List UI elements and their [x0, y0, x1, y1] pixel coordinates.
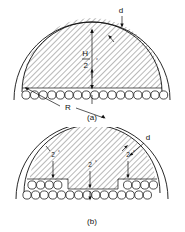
caption-b: (b)	[87, 217, 97, 226]
label-left-step-degree-b: °	[58, 150, 60, 155]
label-d-a: d	[119, 6, 123, 15]
label-angle-degree-a: °	[96, 58, 98, 63]
tube-row-a	[22, 91, 168, 99]
caption-a: (a)	[87, 113, 97, 122]
tube-row-lower-b	[23, 191, 152, 199]
label-left-step-b: 2	[51, 151, 55, 158]
label-right-step-degree-b: °	[133, 150, 135, 155]
panel-b-figure: d 2 ° 2 ° 2 ° (b)	[0, 127, 185, 232]
panel-a-caption-wrap: (a)	[0, 106, 185, 126]
figure-root: d H 2 ° R (a)	[0, 0, 185, 232]
label-d-b: d	[146, 133, 150, 142]
label-h-a: H	[82, 49, 88, 58]
label-right-step-b: 2	[126, 151, 130, 158]
panel-a-figure: d H 2 ° R	[0, 0, 185, 120]
label-center-step-degree-b: °	[95, 160, 97, 165]
label-height-divisor-a: 2	[84, 61, 89, 70]
label-center-step-b: 2	[88, 161, 92, 168]
